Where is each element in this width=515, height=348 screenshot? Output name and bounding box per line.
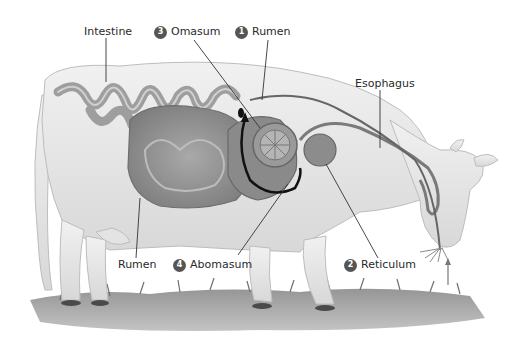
cow-digestion-diagram: Intestine 3 Omasum 1 Rumen Esophagus Rum… — [0, 0, 515, 348]
label-reticulum: 2 Reticulum — [344, 258, 416, 272]
number-badge-1: 1 — [235, 26, 248, 39]
number-badge-3: 3 — [154, 26, 167, 39]
label-rumen-top: 1 Rumen — [235, 25, 291, 39]
label-esophagus: Esophagus — [355, 77, 415, 91]
cow-illustration — [0, 0, 515, 348]
label-omasum: 3 Omasum — [154, 25, 221, 39]
number-badge-2: 2 — [344, 259, 357, 272]
label-rumen-bottom: Rumen — [118, 258, 157, 272]
label-intestine: Intestine — [84, 25, 132, 39]
hay — [420, 248, 448, 262]
up-arrow-icon — [445, 258, 451, 285]
label-abomasum: 4 Abomasum — [173, 258, 252, 272]
number-badge-4: 4 — [173, 259, 186, 272]
